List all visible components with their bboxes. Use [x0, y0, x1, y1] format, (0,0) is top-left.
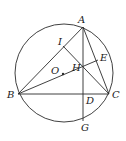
label-e: E: [99, 52, 108, 63]
label-c: C: [112, 89, 120, 100]
label-i: I: [57, 36, 63, 47]
label-a: A: [77, 14, 85, 25]
label-o: O: [51, 65, 59, 76]
label-h: H: [71, 62, 81, 73]
label-d: D: [85, 95, 94, 106]
geometry-diagram: ABCDEGHIO: [0, 0, 126, 141]
label-g: G: [81, 122, 89, 133]
segment-ab: [18, 27, 83, 94]
circumcircle: [15, 24, 113, 122]
center-point-o: [62, 73, 64, 75]
diagram-shapes: [15, 24, 113, 122]
label-b: B: [6, 89, 14, 100]
